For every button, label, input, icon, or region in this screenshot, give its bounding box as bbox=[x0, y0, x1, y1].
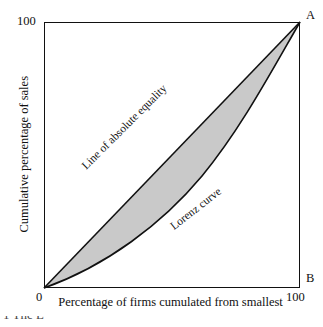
y-axis-title: Cumulative percentage of sales bbox=[18, 34, 31, 274]
caption-remnant-text: 1 The L bbox=[3, 316, 123, 323]
plot-canvas bbox=[44, 22, 300, 288]
equality-line bbox=[44, 22, 300, 288]
caption-remnant: 1 The L bbox=[3, 316, 123, 327]
y-axis-tick-100: 100 bbox=[17, 15, 36, 28]
corner-label-a: A bbox=[306, 9, 315, 22]
corner-label-b: B bbox=[306, 272, 314, 285]
x-axis-title: Percentage of firms cumulated from small… bbox=[0, 296, 323, 309]
lorenz-curve-figure: 100 0 100 A B Percentage of firms cumula… bbox=[0, 0, 323, 327]
